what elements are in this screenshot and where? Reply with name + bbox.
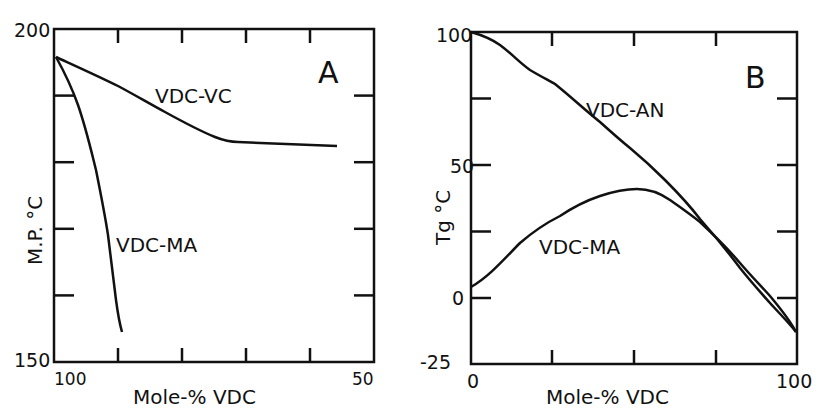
series-label-vdc-vc: VDC-VC bbox=[155, 84, 232, 108]
x-tick-label-100b: 100 bbox=[776, 370, 812, 392]
x-tick-label-100: 100 bbox=[54, 369, 86, 389]
y-tick-label-200: 200 bbox=[14, 19, 50, 41]
y-tick-label-50: 50 bbox=[450, 155, 474, 177]
series-label-vdc-an: VDC-AN bbox=[586, 98, 664, 122]
x-axis-label-b: Mole-% VDC bbox=[546, 385, 669, 409]
y-axis-label: M.P. °C bbox=[23, 196, 47, 265]
x-axis-label: Mole-% VDC bbox=[133, 385, 256, 409]
panel-b: 100 50 0 -25 0 100 Mole-% VDC Tg °C VDC-… bbox=[420, 24, 812, 409]
y-tick-label-100: 100 bbox=[436, 24, 472, 46]
series-vdc-ma-line-b bbox=[471, 189, 796, 332]
y-axis-label-b: Tg °C bbox=[431, 190, 455, 246]
panel-a: 200 150 100 50 Mole-% VDC M.P. °C VDC-VC… bbox=[14, 19, 374, 409]
y-tick-label-0: 0 bbox=[452, 287, 464, 309]
y-tick-label-150: 150 bbox=[14, 349, 50, 371]
series-vdc-ma-line bbox=[56, 57, 122, 332]
series-label-vdc-ma: VDC-MA bbox=[116, 233, 198, 257]
series-label-vdc-ma-b: VDC-MA bbox=[539, 235, 621, 259]
panel-label-a: A bbox=[318, 55, 339, 90]
figure: 200 150 100 50 Mole-% VDC M.P. °C VDC-VC… bbox=[0, 0, 819, 414]
y-tick-label-neg25: -25 bbox=[420, 351, 451, 373]
x-tick-label-50: 50 bbox=[352, 369, 374, 389]
x-tick-label-0: 0 bbox=[467, 370, 479, 392]
panel-label-b: B bbox=[745, 60, 766, 95]
